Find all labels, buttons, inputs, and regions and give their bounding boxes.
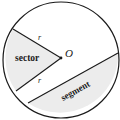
sector-label: sector bbox=[15, 53, 40, 63]
center-point bbox=[60, 57, 63, 60]
circle-diagram: O r r sector segment bbox=[0, 0, 120, 120]
center-label: O bbox=[65, 47, 73, 59]
